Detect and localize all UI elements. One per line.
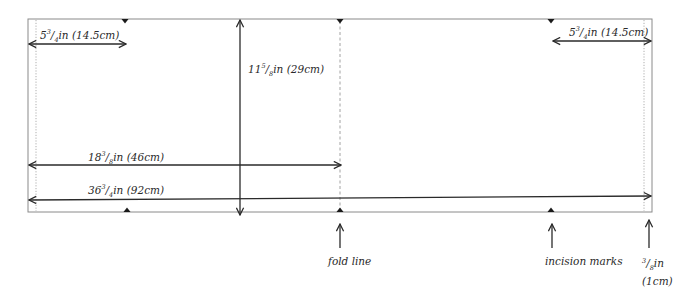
unit: in xyxy=(113,184,123,196)
unit: in xyxy=(59,29,69,41)
whole: 5 xyxy=(569,26,576,38)
notch-top-fold xyxy=(337,19,344,24)
unit: in xyxy=(588,26,598,38)
numerator: 3 xyxy=(101,150,105,158)
metric: (29cm) xyxy=(287,63,324,75)
whole: 11 xyxy=(248,63,261,75)
label-top-right-width: 53/4in (14.5cm) xyxy=(569,26,648,40)
notch-bottom-fold xyxy=(337,208,344,213)
notch-bottom-left xyxy=(124,208,131,213)
label-incision-marks: incision marks xyxy=(545,256,623,267)
unit: in xyxy=(654,257,664,269)
numerator: 3 xyxy=(576,25,580,33)
pattern-diagram xyxy=(0,0,699,295)
whole: 5 xyxy=(40,29,47,41)
notch-top-right xyxy=(548,19,555,24)
whole: 36 xyxy=(88,184,101,196)
whole: 18 xyxy=(88,151,101,163)
label-height: 115/8in (29cm) xyxy=(248,63,324,77)
numerator: 3 xyxy=(47,28,51,36)
label-fold-line: fold line xyxy=(328,256,371,267)
metric: (92cm) xyxy=(127,184,164,196)
notch-top-left xyxy=(122,19,129,24)
metric: (14.5cm) xyxy=(72,29,119,41)
metric: (46cm) xyxy=(127,151,164,163)
label-top-left-width: 53/4in (14.5cm) xyxy=(40,29,119,43)
unit: in xyxy=(273,63,283,75)
metric: (1cm) xyxy=(642,275,673,287)
unit: in xyxy=(113,151,123,163)
notch-bottom-right xyxy=(548,208,555,213)
numerator: 3 xyxy=(642,257,646,265)
numerator: 3 xyxy=(101,183,105,191)
metric: (14.5cm) xyxy=(601,26,648,38)
label-full-length: 363/4in (92cm) xyxy=(88,184,164,198)
label-seam-allowance: 3/8in (1cm) xyxy=(642,255,673,290)
numerator: 5 xyxy=(261,62,265,70)
label-half-length: 183/8in (46cm) xyxy=(88,151,164,165)
